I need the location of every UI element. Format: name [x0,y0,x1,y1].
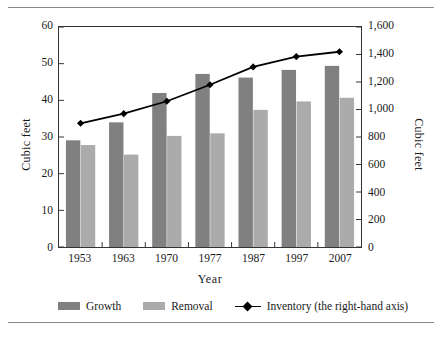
bar-growth [66,140,80,247]
right-axis-tick-labels: 1,6001,4001,2001,0008006004002000 [368,26,412,248]
bar-removal [167,136,181,247]
left-tick-label: 50 [26,57,53,69]
left-tick-label: 30 [26,131,53,143]
x-tick-label: 1953 [68,252,91,264]
x-tick-label: 1977 [199,252,222,264]
bar-removal [253,110,267,247]
legend-swatch [58,302,80,310]
right-tick-label: 400 [368,187,385,199]
right-tick-label: 600 [368,159,385,171]
x-tick-label: 2007 [329,252,352,264]
legend-label: Removal [171,300,213,312]
chart-canvas [59,27,361,247]
bar-growth [195,74,209,247]
bar-removal [81,145,95,247]
x-tick-label: 1997 [285,252,308,264]
legend-item: Inventory (the right-hand axis) [235,300,408,312]
bar-growth [325,66,339,247]
right-tick-label: 200 [368,215,385,227]
left-tick-label: 10 [26,205,53,217]
left-tick-label: 0 [26,242,53,254]
top-divider-rule [8,7,434,8]
left-tick-label: 20 [26,168,53,180]
bar-removal [124,155,138,247]
legend-item: Removal [143,300,213,312]
bar-growth [152,93,166,247]
legend-swatch [143,302,165,310]
bar-removal [340,98,354,247]
bar-removal [297,101,311,247]
x-tick-label: 1963 [112,252,135,264]
inventory-marker [120,110,127,117]
inventory-marker [336,48,343,55]
right-tick-label: 1,600 [368,20,394,32]
chart-figure: Cubic feet Cubic feet 6050403020100 1,60… [0,0,442,338]
chart-legend: GrowthRemovalInventory (the right-hand a… [58,298,418,314]
right-tick-label: 1,400 [368,48,394,60]
legend-label: Growth [86,300,121,312]
right-tick-label: 1,000 [368,104,394,116]
left-axis-tick-labels: 6050403020100 [26,26,53,248]
legend-label: Inventory (the right-hand axis) [267,300,408,312]
legend-item: Growth [58,300,121,312]
right-tick-label: 1,200 [368,76,394,88]
right-axis-title: Cubic feet [411,100,426,190]
left-tick-label: 40 [26,94,53,106]
x-axis-title: Year [58,272,362,287]
inventory-marker [77,120,84,127]
inventory-marker [250,63,257,70]
left-tick-label: 60 [26,20,53,32]
bar-growth [109,122,123,247]
x-tick-label: 1970 [155,252,178,264]
x-axis-tick-labels: 1953196319701977198719972007 [58,252,362,268]
bottom-divider-rule [8,322,434,323]
bar-growth [238,78,252,247]
x-tick-label: 1987 [242,252,265,264]
bar-removal [210,133,224,247]
right-tick-label: 0 [368,242,374,254]
right-tick-label: 800 [368,131,385,143]
bar-growth [282,70,296,247]
legend-line-diamond-icon [235,301,261,311]
inventory-marker [293,53,300,60]
plot-area [58,26,362,248]
